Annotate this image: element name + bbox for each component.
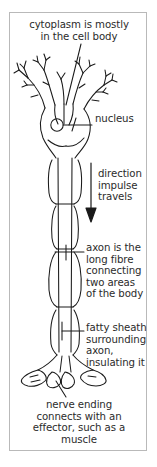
dendrites xyxy=(14,54,117,109)
label-fatty-sheath: fatty sheath surrounding axon, insulatin… xyxy=(86,322,147,368)
leader-line-axon xyxy=(55,245,84,260)
caption-nerve-ending: nerve ending connects with an effector, … xyxy=(13,399,145,445)
cell-body xyxy=(41,104,91,158)
myelin-sheath xyxy=(48,160,81,355)
neuron-illustration xyxy=(0,0,157,467)
impulse-direction-arrow xyxy=(86,163,96,222)
leader-line-nucleus xyxy=(63,118,92,131)
leader-line-cytoplasm xyxy=(66,44,81,105)
leader-line-fatty-sheath xyxy=(62,322,84,340)
label-axon: axon is the long fibre connecting two ar… xyxy=(86,242,143,300)
neuron-diagram-figure: cytoplasm is mostly in the cell body nuc… xyxy=(0,0,157,467)
label-nucleus: nucleus xyxy=(95,113,134,125)
caption-cytoplasm: cytoplasm is mostly in the cell body xyxy=(17,19,141,42)
axon-core xyxy=(58,158,72,352)
label-direction-impulse-travels: direction impulse travels xyxy=(98,168,142,203)
